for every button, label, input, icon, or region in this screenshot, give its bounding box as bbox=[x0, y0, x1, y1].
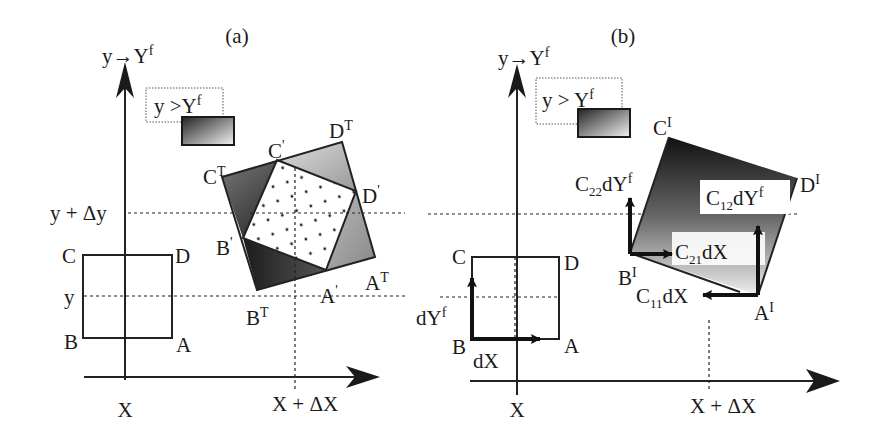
label-AI: AI bbox=[754, 300, 774, 325]
label-CI: CI bbox=[653, 115, 672, 140]
label-BI: BI bbox=[618, 265, 637, 290]
label-C22dYf: C22dYf bbox=[575, 171, 633, 199]
label-Aprime: A' bbox=[320, 283, 338, 308]
label-B: B bbox=[452, 335, 466, 359]
label-C: C bbox=[62, 244, 76, 268]
tick-y-plus-dy: y + Δy bbox=[50, 201, 107, 225]
label-A: A bbox=[176, 333, 192, 357]
label-D: D bbox=[564, 251, 579, 275]
deformation-diagram: (a) y→Yf y >Yf C D B A y y + Δy X X + ΔX bbox=[0, 0, 884, 443]
tick-y: y bbox=[64, 285, 75, 309]
label-DI: DI bbox=[800, 172, 820, 197]
y-axis-label: y→Yf bbox=[102, 43, 154, 68]
label-dYf: dYf bbox=[416, 305, 447, 330]
panel-a-caption: (a) bbox=[225, 24, 248, 48]
label-dX: dX bbox=[473, 349, 499, 373]
tick-x-plus-dx: X + ΔX bbox=[690, 394, 756, 418]
label-BT: BT bbox=[246, 305, 269, 330]
label-Dprime: D' bbox=[362, 183, 380, 208]
tick-x: X bbox=[117, 398, 132, 422]
label-CT: CT bbox=[203, 164, 226, 189]
legend-swatch bbox=[182, 117, 234, 145]
label-A: A bbox=[564, 334, 580, 358]
deformed-element bbox=[630, 137, 797, 295]
y-axis-label: y→Yf bbox=[498, 45, 550, 70]
panel-a: (a) y→Yf y >Yf C D B A y y + Δy X X + ΔX bbox=[50, 24, 405, 422]
tick-x-plus-dx: X + ΔX bbox=[272, 392, 338, 416]
label-AT: AT bbox=[365, 270, 389, 295]
label-C: C bbox=[452, 245, 466, 269]
legend-swatch bbox=[578, 109, 630, 137]
label-D: D bbox=[175, 244, 190, 268]
label-C11dX: C11dX bbox=[636, 284, 688, 311]
label-DT: DT bbox=[329, 118, 353, 143]
panel-b-caption: (b) bbox=[611, 24, 636, 48]
label-Bprime: B' bbox=[216, 235, 233, 260]
label-C12dYf: C12dYf bbox=[706, 185, 764, 213]
tick-x: X bbox=[509, 398, 524, 422]
panel-b: (b) y→Yf y > Yf C D B A X X + ΔX d bbox=[416, 24, 840, 422]
label-C21dX: C21dX bbox=[675, 240, 728, 267]
label-B: B bbox=[64, 330, 78, 354]
legend-label: y >Yf bbox=[154, 93, 202, 118]
